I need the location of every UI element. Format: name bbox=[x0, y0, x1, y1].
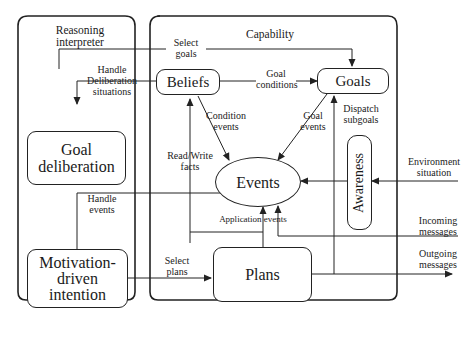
handle-deliberation-label: Handle Deliberation situations bbox=[80, 64, 144, 97]
goals-label: Goals bbox=[336, 73, 371, 90]
reasoning-interpreter-title-line2: interpreter bbox=[40, 36, 120, 48]
goal-deliberation-label-line1: Goal bbox=[38, 141, 114, 158]
select-goals-label: Select goals bbox=[166, 37, 206, 59]
application-events-label: Application events bbox=[210, 214, 296, 225]
dispatch-subgoals-line1: Dispatch bbox=[339, 103, 383, 114]
capability-title: Capability bbox=[230, 28, 310, 40]
select-plans-line2: plans bbox=[160, 266, 194, 277]
awareness-node[interactable]: Awareness bbox=[347, 135, 372, 230]
goal-conditions-line2: conditions bbox=[256, 79, 296, 90]
handle-events-line1: Handle bbox=[84, 193, 120, 204]
plans-label: Plans bbox=[245, 266, 280, 283]
beliefs-node[interactable]: Beliefs bbox=[156, 69, 220, 95]
dispatch-subgoals-line2: subgoals bbox=[339, 114, 383, 125]
handle-events-label: Handle events bbox=[84, 193, 120, 215]
select-plans-label: Select plans bbox=[160, 255, 194, 277]
events-node[interactable]: Events bbox=[215, 157, 301, 207]
goal-conditions-label: Goal conditions bbox=[256, 68, 296, 90]
read-write-facts-label: Read/Write facts bbox=[164, 150, 216, 172]
select-plans-line1: Select bbox=[160, 255, 194, 266]
handle-deliberation-line2: Deliberation bbox=[80, 75, 144, 86]
outgoing-line1: Outgoing bbox=[410, 248, 466, 259]
events-label: Events bbox=[236, 174, 280, 191]
condition-events-line2: events bbox=[203, 121, 249, 132]
outgoing-line2: messages bbox=[410, 259, 466, 270]
select-goals-line2: goals bbox=[166, 48, 206, 59]
reasoning-interpreter-title-line1: Reasoning bbox=[40, 24, 120, 36]
goals-node[interactable]: Goals bbox=[317, 68, 389, 94]
incoming-line1: Incoming bbox=[410, 215, 466, 226]
read-write-line2: facts bbox=[164, 161, 216, 172]
dispatch-subgoals-label: Dispatch subgoals bbox=[339, 103, 383, 125]
environment-line2: situation bbox=[402, 167, 466, 178]
read-write-line1: Read/Write bbox=[164, 150, 216, 161]
select-goals-line1: Select bbox=[166, 37, 206, 48]
goal-conditions-line1: Goal bbox=[256, 68, 296, 79]
condition-events-line1: Condition bbox=[203, 110, 249, 121]
goal-deliberation-node[interactable]: Goal deliberation bbox=[27, 131, 126, 185]
motivation-label-line2: driven bbox=[39, 271, 115, 287]
goal-events-line2: events bbox=[296, 121, 330, 132]
goal-events-line1: Goal bbox=[296, 110, 330, 121]
motivation-label-line3: intention bbox=[39, 287, 115, 303]
plans-node[interactable]: Plans bbox=[213, 247, 312, 302]
incoming-line2: messages bbox=[410, 226, 466, 237]
incoming-messages-label: Incoming messages bbox=[410, 215, 466, 237]
handle-events-line2: events bbox=[84, 204, 120, 215]
condition-events-label: Condition events bbox=[203, 110, 249, 132]
outgoing-messages-label: Outgoing messages bbox=[410, 248, 466, 270]
goal-events-label: Goal events bbox=[296, 110, 330, 132]
goal-deliberation-label-line2: deliberation bbox=[38, 158, 114, 175]
beliefs-label: Beliefs bbox=[167, 74, 210, 91]
environment-line1: Environment bbox=[402, 156, 466, 167]
handle-deliberation-line3: situations bbox=[80, 86, 144, 97]
reasoning-interpreter-title: Reasoning interpreter bbox=[40, 24, 120, 48]
environment-situation-label: Environment situation bbox=[402, 156, 466, 178]
awareness-label: Awareness bbox=[352, 152, 368, 212]
motivation-label-line1: Motivation- bbox=[39, 255, 115, 271]
motivation-driven-intention-node[interactable]: Motivation- driven intention bbox=[27, 249, 128, 308]
handle-deliberation-line1: Handle bbox=[80, 64, 144, 75]
